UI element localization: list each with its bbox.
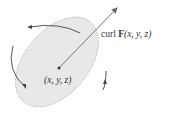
curl-label: curl F(x, y, z) [101,29,151,40]
surface-disk [0,2,115,117]
orientation-arrow-icon [103,79,107,84]
point-label: (x, y, z) [44,75,71,86]
curl-diagram: curl F(x, y, z) (x, y, z) [0,0,171,117]
point-dot [58,67,61,70]
orientation-arrow-icon [27,25,32,29]
